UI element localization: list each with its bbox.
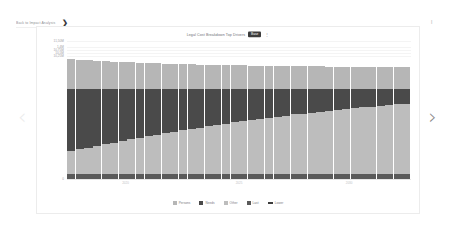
bar-column[interactable]: [127, 41, 135, 179]
bar-column[interactable]: [84, 41, 92, 179]
next-page-button[interactable]: ›: [429, 107, 437, 128]
bar-segment-persons: [119, 62, 127, 89]
legend-item[interactable]: Last: [247, 201, 259, 205]
bar-column[interactable]: [119, 41, 127, 179]
bar-segment-needs: [265, 89, 273, 118]
bar-column[interactable]: [308, 41, 316, 179]
chevron-right-icon[interactable]: ❯: [62, 19, 68, 26]
bar-segment-last: [334, 174, 342, 179]
prev-page-button[interactable]: ‹: [18, 107, 26, 128]
bar-segment-persons: [265, 66, 273, 89]
bar-column[interactable]: [359, 41, 367, 179]
bar-segment-persons: [205, 65, 213, 89]
bar-segment-persons: [256, 66, 264, 89]
bar-segment-needs: [299, 89, 307, 114]
bar-segment-last: [76, 174, 84, 179]
bar-column[interactable]: [248, 41, 256, 179]
bar-segment-other: [308, 113, 316, 174]
bar-column[interactable]: [213, 41, 221, 179]
bar-column[interactable]: [265, 41, 273, 179]
bar-segment-other: [205, 126, 213, 174]
legend-item[interactable]: Lower: [268, 201, 284, 205]
bar-segment-other: [102, 144, 110, 174]
bar-segment-needs: [282, 89, 290, 116]
bar-segment-last: [196, 174, 204, 179]
bar-segment-other: [222, 124, 230, 174]
bar-column[interactable]: [334, 41, 342, 179]
bar-column[interactable]: [170, 41, 178, 179]
bar-segment-last: [153, 174, 161, 179]
bar-segment-needs: [239, 89, 247, 121]
bar-column[interactable]: [93, 41, 101, 179]
bar-segment-last: [359, 174, 367, 179]
bar-column[interactable]: [76, 41, 84, 179]
bar-column[interactable]: [102, 41, 110, 179]
legend-item[interactable]: Other: [224, 201, 238, 205]
bar-segment-other: [359, 107, 367, 174]
bar-column[interactable]: [231, 41, 239, 179]
chart-scenario-badge[interactable]: Base: [248, 32, 261, 38]
bar-column[interactable]: [222, 41, 230, 179]
bar-column[interactable]: [67, 41, 75, 179]
bar-column[interactable]: [239, 41, 247, 179]
bar-column[interactable]: [196, 41, 204, 179]
bar-segment-other: [265, 118, 273, 174]
bar-column[interactable]: [205, 41, 213, 179]
bar-segment-other: [248, 120, 256, 174]
bar-segment-persons: [334, 67, 342, 89]
bar-segment-last: [179, 174, 187, 179]
bar-segment-other: [316, 112, 324, 174]
bar-column[interactable]: [162, 41, 170, 179]
bar-segment-persons: [359, 67, 367, 89]
bar-segment-persons: [351, 67, 359, 89]
bar-segment-persons: [291, 66, 299, 89]
breadcrumb[interactable]: Back to Impact Analysis ❯: [16, 19, 68, 26]
bar-column[interactable]: [299, 41, 307, 179]
bar-segment-persons: [145, 63, 153, 89]
bar-column[interactable]: [136, 41, 144, 179]
corner-marker: ❙: [430, 20, 433, 24]
bar-segment-needs: [93, 89, 101, 146]
bar-column[interactable]: [153, 41, 161, 179]
bar-segment-last: [231, 174, 239, 179]
bar-column[interactable]: [402, 41, 410, 179]
bar-segment-other: [351, 108, 359, 174]
bar-column[interactable]: [385, 41, 393, 179]
legend-item[interactable]: Needs: [199, 201, 214, 205]
bar-segment-other: [110, 143, 118, 174]
bar-column[interactable]: [145, 41, 153, 179]
bar-column[interactable]: [282, 41, 290, 179]
bar-segment-needs: [127, 89, 135, 140]
bar-segment-needs: [351, 89, 359, 108]
bar-segment-last: [325, 174, 333, 179]
y-axis-tick: 11,50M: [54, 39, 64, 44]
bar-column[interactable]: [179, 41, 187, 179]
more-options-icon[interactable]: ⋮: [265, 33, 269, 37]
bar-segment-needs: [385, 89, 393, 105]
bar-segment-persons: [67, 59, 75, 89]
bar-segment-last: [222, 174, 230, 179]
y-axis-tick: 0: [62, 177, 64, 182]
bar-segment-persons: [93, 61, 101, 89]
bar-column[interactable]: [316, 41, 324, 179]
legend-item[interactable]: Persons: [173, 201, 191, 205]
bar-column[interactable]: [394, 41, 402, 179]
bar-column[interactable]: [368, 41, 376, 179]
bar-segment-last: [145, 174, 153, 179]
bar-segment-last: [291, 174, 299, 179]
bar-column[interactable]: [377, 41, 385, 179]
bar-segment-persons: [196, 65, 204, 89]
bar-segment-other: [325, 111, 333, 174]
bar-column[interactable]: [256, 41, 264, 179]
bar-column[interactable]: [110, 41, 118, 179]
bar-column[interactable]: [188, 41, 196, 179]
bar-column[interactable]: [351, 41, 359, 179]
bar-column[interactable]: [274, 41, 282, 179]
bar-segment-persons: [170, 64, 178, 89]
bar-column[interactable]: [342, 41, 350, 179]
bar-column[interactable]: [291, 41, 299, 179]
bar-segment-other: [188, 129, 196, 174]
bar-segment-needs: [213, 89, 221, 125]
bar-column[interactable]: [325, 41, 333, 179]
bar-segment-last: [110, 174, 118, 179]
